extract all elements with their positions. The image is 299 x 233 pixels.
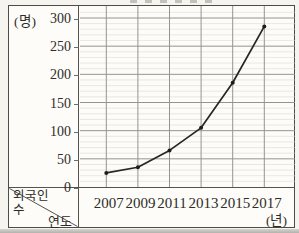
- data-point: [230, 81, 234, 85]
- scan-shadow: [0, 229, 299, 233]
- y-axis-tick-label: 300: [13, 11, 71, 26]
- y-axis-tick-mark: [74, 104, 79, 105]
- x-axis-title: 연도: [48, 211, 72, 230]
- x-axis-tick-label: 2011: [154, 195, 190, 211]
- y-axis-title-line2: 수: [13, 203, 25, 217]
- x-axis-tick-label: 2013: [186, 195, 222, 211]
- y-axis-tick-label: 50: [13, 152, 71, 167]
- data-point: [104, 171, 108, 175]
- data-point: [199, 126, 203, 130]
- y-axis-tick-label: 100: [13, 124, 71, 139]
- y-axis-tick-mark: [74, 188, 79, 189]
- y-axis-tick-mark: [74, 19, 79, 20]
- y-axis-tick-label: 0: [13, 180, 71, 195]
- x-axis-tick-label: 2009: [122, 195, 158, 211]
- y-axis-tick-mark: [74, 132, 79, 133]
- chart-frame: (명) 외국인 수 연도 (년) 05010015020025030020072…: [8, 5, 295, 228]
- x-axis-tick-label: 2007: [91, 195, 127, 211]
- y-axis-tick-mark: [74, 160, 79, 161]
- x-axis-unit-label: (년): [266, 209, 287, 229]
- y-axis-tick-label: 200: [13, 67, 71, 82]
- axis-divider-vertical: [78, 6, 79, 227]
- x-axis-tick-label: 2017: [249, 195, 285, 211]
- line-chart-plot: [80, 6, 295, 187]
- y-axis-tick-mark: [74, 75, 79, 76]
- x-axis-tick-label: 2015: [217, 195, 253, 211]
- cropped-title-fragment: [130, 0, 216, 3]
- y-axis-tick-mark: [74, 47, 79, 48]
- data-line: [106, 26, 264, 172]
- data-point: [167, 148, 171, 152]
- data-point: [135, 165, 139, 169]
- y-axis-tick-label: 150: [13, 96, 71, 111]
- data-point: [262, 24, 266, 28]
- y-axis-tick-label: 250: [13, 39, 71, 54]
